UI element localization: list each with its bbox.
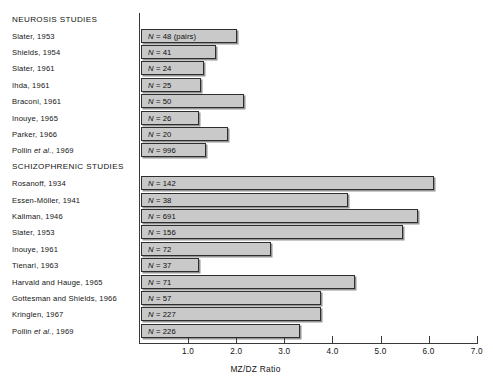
x-axis-tick xyxy=(477,336,478,343)
bar-value-label: N = 25 xyxy=(148,82,171,90)
bar-value-label: N = 24 xyxy=(148,65,171,73)
plot-area: 1.02.03.04.05.06.07.0 N = 48 (pairs)N = … xyxy=(0,0,493,382)
x-axis-tick-label: 3.0 xyxy=(278,347,290,356)
bar-value-label: N = 41 xyxy=(148,49,171,57)
bar-value-label: N = 226 xyxy=(148,328,176,336)
bar xyxy=(141,176,434,190)
x-axis-tick xyxy=(381,336,382,343)
x-axis-title: MZ/DZ Ratio xyxy=(0,364,493,374)
x-axis-line xyxy=(139,343,478,344)
bar-value-label: N = 227 xyxy=(148,311,176,319)
bar xyxy=(141,225,403,239)
bar-value-label: N = 50 xyxy=(148,98,171,106)
bar-value-label: N = 72 xyxy=(148,246,171,254)
bar xyxy=(141,275,355,289)
x-axis-tick-label: 6.0 xyxy=(423,347,435,356)
x-axis-tick-label: 4.0 xyxy=(326,347,338,356)
bar-value-label: N = 48 (pairs) xyxy=(148,33,196,41)
bar-value-label: N = 996 xyxy=(148,147,176,155)
x-axis-tick-label: 2.0 xyxy=(230,347,242,356)
y-axis-line xyxy=(139,13,140,343)
x-axis-tick-label: 5.0 xyxy=(375,347,387,356)
x-axis-title-text: MZ/DZ Ratio xyxy=(230,364,280,374)
bar-value-label: N = 71 xyxy=(148,279,171,287)
x-axis-tick-label: 1.0 xyxy=(182,347,194,356)
bar-value-label: N = 691 xyxy=(148,213,176,221)
bar-value-label: N = 37 xyxy=(148,262,171,270)
bar-value-label: N = 38 xyxy=(148,197,171,205)
bar-value-label: N = 26 xyxy=(148,115,171,123)
bar-value-label: N = 142 xyxy=(148,180,176,188)
bar-value-label: N = 57 xyxy=(148,295,171,303)
bar xyxy=(141,209,418,223)
x-axis-tick xyxy=(429,336,430,343)
chart-figure: NEUROSIS STUDIESSlater, 1953Shields, 195… xyxy=(0,0,493,382)
x-axis-tick xyxy=(332,336,333,343)
x-axis-tick-label: 7.0 xyxy=(471,347,483,356)
bar-value-label: N = 156 xyxy=(148,229,176,237)
bar xyxy=(141,193,348,207)
bar-value-label: N = 20 xyxy=(148,131,171,139)
